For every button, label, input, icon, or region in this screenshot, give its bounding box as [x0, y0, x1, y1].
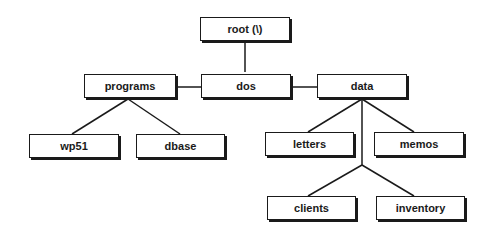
- node-programs: programs: [84, 74, 176, 98]
- edge-programs-wp51: [72, 99, 128, 134]
- edge-data-inventory: [362, 165, 414, 196]
- node-dbase: dbase: [136, 134, 225, 158]
- edge-data-memos: [362, 99, 414, 132]
- node-wp51: wp51: [29, 134, 119, 158]
- node-clients: clients: [267, 196, 356, 220]
- node-root: root (\): [200, 17, 290, 41]
- node-dos: dos: [201, 74, 291, 98]
- node-data: data: [317, 74, 407, 98]
- node-memos: memos: [374, 132, 464, 156]
- edge-data-letters: [308, 99, 362, 132]
- node-letters: letters: [265, 132, 354, 156]
- edge-programs-dbase: [128, 99, 180, 134]
- edge-data-clients: [308, 165, 362, 196]
- node-inventory: inventory: [376, 196, 465, 220]
